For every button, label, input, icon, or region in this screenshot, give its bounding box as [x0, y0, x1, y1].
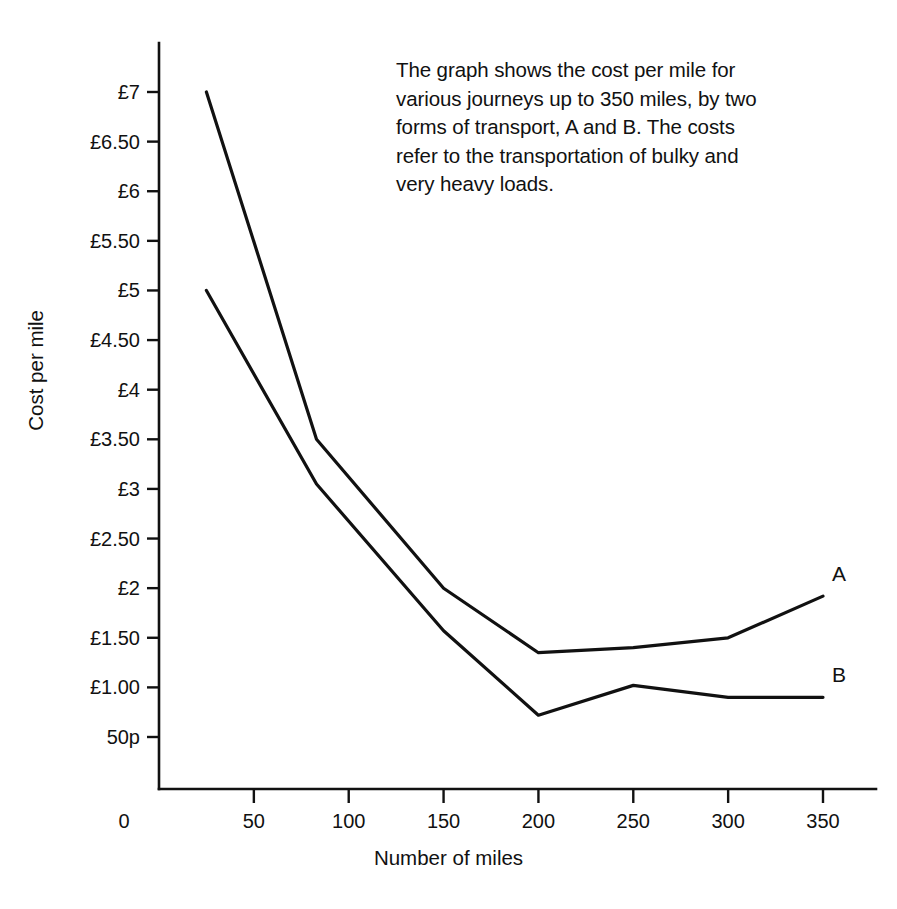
y-tick-label: £6.50 — [48, 130, 140, 153]
series-lines — [206, 92, 823, 715]
y-tick-label: £5.50 — [48, 229, 140, 252]
x-tick-label: 250 — [617, 810, 650, 833]
x-tick-label: 350 — [806, 810, 839, 833]
x-tick-label: 50 — [243, 810, 265, 833]
series-line-b — [206, 291, 823, 716]
chart-page: The graph shows the cost per mile for va… — [0, 0, 897, 909]
y-tick-label: £5 — [48, 279, 140, 302]
y-axis-title: Cost per mile — [24, 310, 48, 431]
x-tick-label: 100 — [332, 810, 365, 833]
series-label-a: A — [832, 562, 846, 586]
y-tick-label: £2.50 — [48, 527, 140, 550]
y-tick-label: £1.00 — [48, 676, 140, 699]
x-axis-title: Number of miles — [0, 846, 897, 870]
y-tick-label: £2 — [48, 577, 140, 600]
x-axis-ticks — [254, 789, 823, 803]
y-tick-label: £7 — [48, 81, 140, 104]
series-line-a — [206, 92, 823, 653]
x-tick-label: 0 — [118, 810, 129, 833]
y-tick-label: £6 — [48, 180, 140, 203]
x-tick-label: 300 — [711, 810, 744, 833]
x-tick-label: 200 — [522, 810, 555, 833]
y-tick-label: £4.50 — [48, 329, 140, 352]
y-tick-label: £4 — [48, 378, 140, 401]
y-tick-label: 50p — [48, 726, 140, 749]
y-axis-ticks — [147, 92, 159, 737]
x-tick-label: 150 — [427, 810, 460, 833]
y-tick-label: £3 — [48, 477, 140, 500]
y-tick-label: £1.50 — [48, 626, 140, 649]
y-tick-label: £3.50 — [48, 428, 140, 451]
axes — [159, 43, 876, 789]
series-label-b: B — [832, 663, 846, 687]
